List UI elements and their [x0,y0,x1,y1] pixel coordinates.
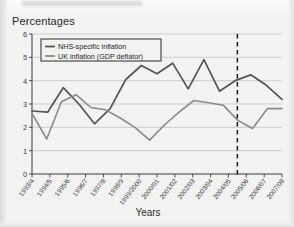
y-tick-label: 5 [23,53,27,62]
y-tick-label: 1 [23,147,27,156]
x-tick-label: 1997/8 [89,177,107,197]
page-title: Percentages [12,15,75,27]
line-chart: 0123456 1993/41994/51995/61996/71997/819… [8,30,288,220]
scan-artifact [22,1,142,6]
series-line-2 [32,95,282,141]
x-tick-label: 2007/08 [265,177,285,200]
page-right-edge-shadow [289,0,294,227]
chart-container: 0123456 1993/41994/51995/61996/71997/819… [8,30,288,220]
y-tick-labels: 0123456 [23,30,27,179]
chart-legend: NHS-specific inflationUK inflation (GDP … [41,39,161,61]
series-line-1 [32,60,282,124]
y-tick-label: 4 [23,77,27,86]
x-axis-title: Years [135,207,160,218]
page-left-edge-shadow [0,0,7,227]
y-tick-label: 0 [23,170,27,179]
x-tick-label: 1995/6 [53,177,71,197]
y-tick-label: 2 [23,123,27,132]
page-bottom-edge-shadow [0,223,294,227]
x-tick-label: 1993/4 [17,177,35,197]
x-tick-label: 1994/5 [35,177,53,197]
y-tick-label: 3 [23,100,27,109]
legend-label-2: UK inflation (GDP deflator) [58,52,143,61]
figure-page: Percentages 0123456 1993/41994/51995/619… [0,0,294,227]
legend-label-1: NHS-specific inflation [58,42,126,51]
x-tick-labels: 1993/41994/51995/61996/71997/81998/91999… [17,177,285,206]
y-tick-label: 6 [23,30,27,39]
x-tick-label: 1998/9 [107,177,125,197]
x-tick-label: 1996/7 [71,177,89,197]
data-series [32,60,282,141]
